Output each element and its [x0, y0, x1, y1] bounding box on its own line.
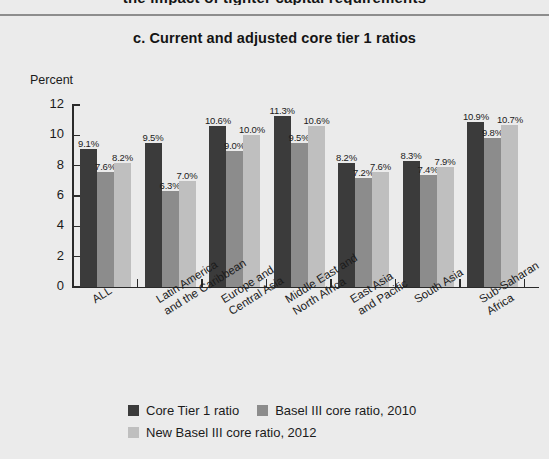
bar-value-label: 10.0% [239, 124, 264, 135]
bar [97, 172, 114, 287]
legend-swatch-icon [128, 427, 139, 438]
bar-value-label: 8.3% [399, 150, 424, 161]
bar [403, 161, 420, 287]
bar [308, 126, 325, 287]
bar [437, 167, 454, 287]
clipped-header-text: the impact of tighter capital requiremen… [0, 0, 549, 5]
bar-value-label: 9.5% [141, 132, 166, 143]
legend-item[interactable]: New Basel III core ratio, 2012 [128, 425, 317, 440]
bar [162, 191, 179, 287]
bar [145, 143, 162, 287]
legend-item[interactable]: Core Tier 1 ratio [128, 403, 239, 418]
bar [501, 125, 518, 287]
bar-value-label: 10.6% [205, 115, 230, 126]
legend-row: Core Tier 1 ratioBasel III core ratio, 2… [128, 400, 434, 420]
legend-item[interactable]: Basel III core ratio, 2010 [257, 403, 416, 418]
bar-value-label: 9.1% [76, 138, 101, 149]
y-axis-unit-label: Percent [30, 73, 73, 87]
bar [467, 122, 484, 287]
bar-value-label: 11.3% [270, 105, 295, 116]
legend-row: New Basel III core ratio, 2012 [128, 422, 335, 442]
legend-label: Basel III core ratio, 2010 [275, 403, 416, 418]
bar [291, 143, 308, 287]
legend-label: New Basel III core ratio, 2012 [146, 425, 317, 440]
y-axis-tick-label: 2 [24, 248, 64, 263]
bar-value-label: 8.2% [334, 152, 359, 163]
figure-panel: the impact of tighter capital requiremen… [0, 0, 549, 459]
header-rule [0, 14, 549, 16]
bar-value-label: 7.9% [433, 156, 458, 167]
legend-label: Core Tier 1 ratio [146, 403, 239, 418]
chart-title: c. Current and adjusted core tier 1 rati… [0, 30, 549, 46]
bar-value-label: 10.7% [497, 114, 522, 125]
y-axis-tick-label: 4 [24, 217, 64, 232]
bar [484, 138, 501, 287]
bar-value-label: 8.2% [110, 152, 135, 163]
y-axis-tick-label: 10 [24, 126, 64, 141]
legend-swatch-icon [257, 405, 268, 416]
y-axis-tick-label: 8 [24, 157, 64, 172]
bar [114, 163, 131, 287]
bar [420, 175, 437, 287]
legend-swatch-icon [128, 405, 139, 416]
bar-value-label: 7.6% [368, 161, 393, 172]
bar-value-label: 10.9% [463, 111, 488, 122]
bar-value-label: 10.6% [304, 115, 329, 126]
plot-area: 9.1%7.6%8.2%9.5%6.3%7.0%10.6%9.0%10.0%11… [72, 105, 538, 287]
y-axis-tick-label: 12 [24, 96, 64, 111]
y-axis-tick-label: 6 [24, 187, 64, 202]
bar-value-label: 7.0% [175, 170, 200, 181]
y-axis-tick-label: 0 [24, 278, 64, 293]
